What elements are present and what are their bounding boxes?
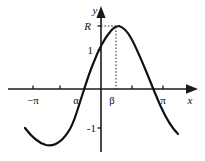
y-tick-label-neg-one: -1 bbox=[87, 122, 96, 134]
y-axis-label: y bbox=[92, 4, 98, 16]
y-tick-label-one: 1 bbox=[88, 44, 94, 56]
x-tick-label-alpha: α bbox=[73, 95, 79, 106]
y-axis-arrow-icon bbox=[96, 6, 105, 18]
x-tick-label-pi: π bbox=[160, 94, 166, 106]
x-axis bbox=[8, 84, 198, 94]
x-axis-label: x bbox=[187, 94, 193, 106]
graph-figure: y x R 1 -1 −π α β π bbox=[0, 0, 205, 161]
sinusoid-plot: y x R 1 -1 −π α β π bbox=[0, 0, 205, 161]
y-axis bbox=[96, 6, 105, 152]
y-tick-label-R: R bbox=[83, 20, 91, 32]
x-tick-label-neg-pi: −π bbox=[27, 94, 39, 106]
x-axis-arrow-icon bbox=[186, 84, 198, 94]
x-tick-label-beta: β bbox=[109, 95, 114, 106]
